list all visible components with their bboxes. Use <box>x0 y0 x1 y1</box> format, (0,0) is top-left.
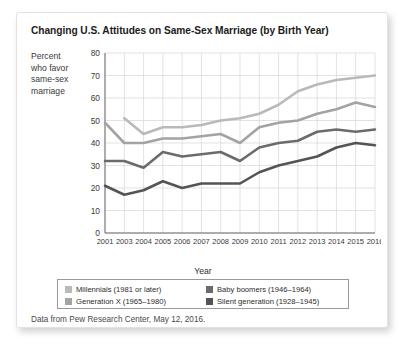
legend-column-left: Millennials (1981 or later) Generation X… <box>65 283 166 307</box>
plot-area: 01020304050607080 2001200320042005200620… <box>73 49 381 255</box>
y-tick-label: 50 <box>91 116 101 126</box>
y-tick-label: 60 <box>91 93 101 103</box>
x-tick-label: 2012 <box>290 237 307 246</box>
y-tick-labels: 01020304050607080 <box>91 49 101 238</box>
x-tick-label: 2014 <box>328 237 345 246</box>
y-tick-label: 30 <box>91 161 101 171</box>
source-note: Data from Pew Research Center, May 12, 2… <box>31 315 205 324</box>
legend-item-baby-boomers: Baby boomers (1946–1964) <box>206 283 319 295</box>
x-tick-label: 2011 <box>271 237 287 246</box>
legend-swatch-silent-generation <box>206 298 213 305</box>
x-tick-label: 2008 <box>212 237 229 246</box>
chart-legend: Millennials (1981 or later) Generation X… <box>57 279 349 309</box>
series-line <box>124 76 375 135</box>
line-chart-svg: 01020304050607080 2001200320042005200620… <box>73 49 381 255</box>
chart-card: Changing U.S. Attitudes on Same-Sex Marr… <box>16 12 388 328</box>
x-tick-label: 2007 <box>193 237 210 246</box>
x-tick-labels: 2001200320042005200620072008200920102011… <box>97 237 381 246</box>
y-tick-label: 10 <box>91 206 101 216</box>
y-tick-label: 70 <box>91 71 101 81</box>
x-tick-label: 2003 <box>116 237 133 246</box>
y-tick-label: 40 <box>91 138 101 148</box>
legend-label-baby-boomers: Baby boomers (1946–1964) <box>217 285 311 294</box>
x-axis-label: Year <box>17 266 389 276</box>
legend-item-silent-generation: Silent generation (1928–1945) <box>206 295 319 307</box>
x-tick-label: 2009 <box>232 237 249 246</box>
x-tick-label: 2015 <box>347 237 364 246</box>
legend-label-silent-generation: Silent generation (1928–1945) <box>217 297 319 306</box>
legend-item-millennials: Millennials (1981 or later) <box>65 283 166 295</box>
legend-swatch-baby-boomers <box>206 286 213 293</box>
legend-swatch-generation-x <box>65 298 72 305</box>
x-tick-label: 2005 <box>155 237 172 246</box>
legend-label-millennials: Millennials (1981 or later) <box>76 285 161 294</box>
x-tick-label: 2004 <box>135 237 152 246</box>
page-title: Changing U.S. Attitudes on Same-Sex Marr… <box>31 25 329 36</box>
legend-column-right: Baby boomers (1946–1964) Silent generati… <box>206 283 319 307</box>
x-tick-label: 2013 <box>309 237 326 246</box>
legend-swatch-millennials <box>65 286 72 293</box>
x-tick-label: 2016 <box>367 237 381 246</box>
x-tick-label: 2006 <box>174 237 191 246</box>
x-tick-label: 2010 <box>251 237 268 246</box>
legend-label-generation-x: Generation X (1965–1980) <box>76 297 166 306</box>
y-tick-label: 20 <box>91 183 101 193</box>
legend-item-generation-x: Generation X (1965–1980) <box>65 295 166 307</box>
x-tick-label: 2001 <box>97 237 114 246</box>
y-tick-label: 80 <box>91 49 101 58</box>
